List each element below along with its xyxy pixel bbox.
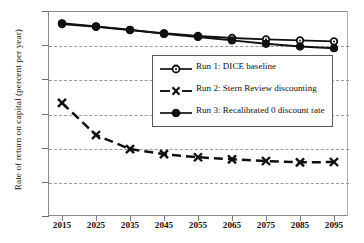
chart-legend: Run 1: DICE baseline Run 2: Stern Review… (152, 55, 333, 127)
gridline (49, 149, 349, 150)
open-circle-icon (159, 62, 193, 76)
chart-container: Rate of return on capital (percent per y… (0, 0, 364, 243)
gridline (49, 183, 349, 184)
legend-label-run3: Run 3: Recalibrated 0 discount rate (193, 105, 325, 116)
y-tick-mark (42, 45, 49, 46)
legend-label-run2: Run 2: Stern Review discounting (193, 83, 317, 94)
y-tick-mark (42, 79, 49, 80)
y-tick-mark (42, 216, 49, 217)
x-cross-icon (159, 84, 193, 98)
y-tick-mark (42, 11, 49, 12)
legend-label-run1: Run 1: DICE baseline (193, 61, 276, 72)
filled-circle-icon (159, 106, 193, 120)
x-tick-label: 2095 (311, 221, 357, 230)
legend-item-run1[interactable]: Run 1: DICE baseline (159, 61, 328, 83)
legend-item-run3[interactable]: Run 3: Recalibrated 0 discount rate (159, 105, 328, 127)
y-axis-title: Rate of return on capital (percent per y… (14, 5, 23, 215)
legend-item-run2[interactable]: Run 2: Stern Review discounting (159, 83, 328, 105)
gridline (49, 46, 349, 47)
y-tick-mark (42, 148, 49, 149)
y-tick-mark (42, 114, 49, 115)
y-tick-mark (42, 182, 49, 183)
